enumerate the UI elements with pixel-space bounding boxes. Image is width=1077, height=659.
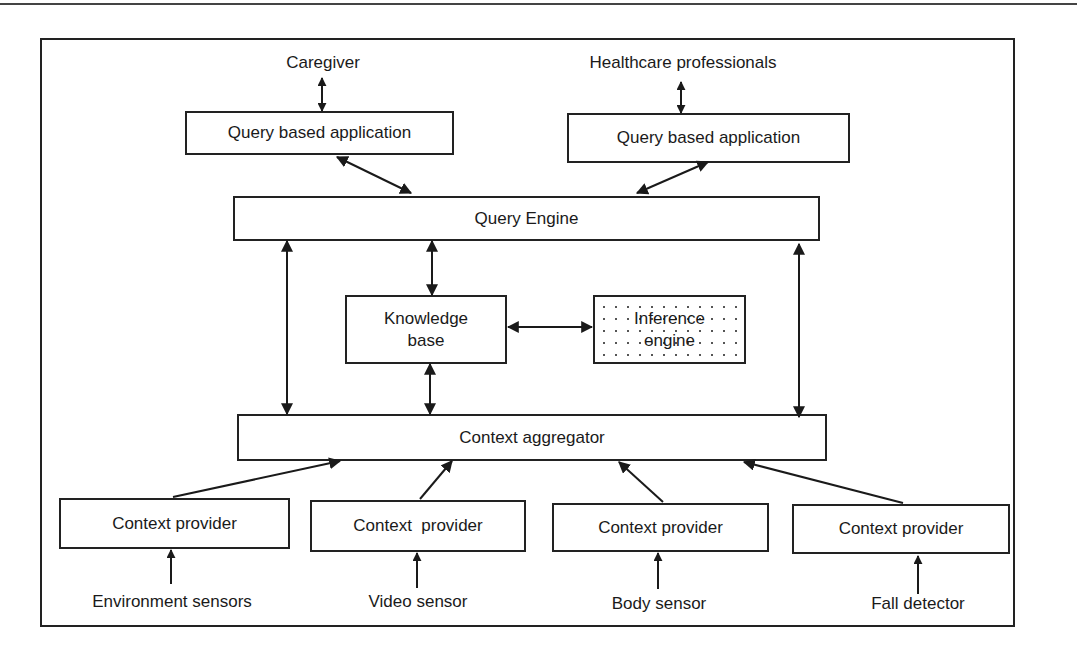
context-provider-fall: Context provider: [792, 504, 1010, 554]
box-label-line1: Knowledge: [384, 308, 468, 330]
source-body-sensor: Body sensor: [612, 594, 707, 614]
box-label: Context provider: [112, 513, 237, 535]
top-rule: [0, 3, 1077, 5]
actor-healthcare-professionals: Healthcare professionals: [589, 53, 776, 73]
context-provider-environment: Context provider: [59, 498, 290, 549]
knowledge-base: Knowledge base: [345, 295, 507, 364]
box-label: Query based application: [617, 127, 800, 149]
source-video-sensor: Video sensor: [369, 592, 468, 612]
box-label-line2: engine: [644, 330, 695, 352]
source-fall-detector: Fall detector: [871, 594, 965, 614]
context-provider-video: Context provider: [310, 500, 526, 552]
box-label-line1: Inference: [634, 308, 705, 330]
actor-caregiver: Caregiver: [286, 53, 360, 73]
query-engine: Query Engine: [233, 196, 820, 241]
query-based-application-caregiver: Query based application: [185, 111, 454, 155]
query-based-application-healthcare: Query based application: [567, 113, 850, 163]
box-label-line2: base: [408, 330, 445, 352]
source-environment-sensors: Environment sensors: [92, 592, 252, 612]
box-label: Query based application: [228, 122, 411, 144]
box-label: Context aggregator: [459, 427, 605, 449]
box-label: Query Engine: [475, 208, 579, 230]
box-label: Context provider: [839, 518, 964, 540]
box-label: Context provider: [598, 517, 723, 539]
context-aggregator: Context aggregator: [237, 414, 827, 461]
context-provider-body: Context provider: [552, 503, 769, 552]
box-label: Context provider: [353, 515, 482, 537]
inference-engine: Inference engine: [593, 295, 746, 364]
